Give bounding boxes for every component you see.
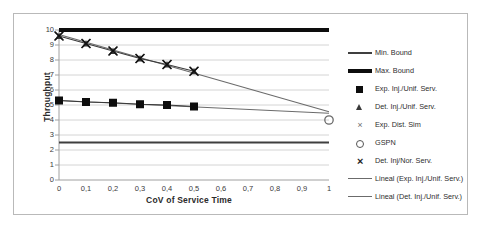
legend-label: GSPN (373, 138, 396, 147)
series-line-exp-inj-unif-serv (59, 101, 194, 107)
line-thick-key (347, 64, 373, 78)
x-small-marker-key: × (347, 118, 373, 132)
legend-item-min-bound[interactable]: Min. Bound (347, 45, 412, 60)
legend-label: Det. Inj/Nor. Serv. (373, 156, 432, 165)
legend-item-max-bound[interactable]: Max. Bound (347, 63, 414, 78)
line-thin-key (347, 46, 373, 60)
legend-label: Lineal (Exp. Inj./Unif. Serv.) (373, 174, 463, 183)
legend-label: Lineal (Det. Inj./Unif. Serv.) (373, 192, 462, 201)
chart-figure: Throughput CoV of Service Time 10 9 8 7 … (0, 0, 482, 231)
legend-label: Exp. Dist. Sim (373, 120, 421, 129)
x-big-marker-key: × (347, 154, 373, 168)
chart-legend: Min. Bound Max. Bound Exp. Inj./Unif. Se… (347, 45, 482, 195)
legend-item-exp-inj-unif-serv[interactable]: Exp. Inj./Unif. Serv. (347, 81, 437, 96)
legend-label: Max. Bound (373, 66, 414, 75)
legend-label: Min. Bound (373, 48, 412, 57)
legend-item-lineal-exp-inj-unif-serv[interactable]: Lineal (Exp. Inj./Unif. Serv.) (347, 171, 463, 186)
trend-line-key (347, 172, 373, 186)
y-axis-ticks (55, 30, 59, 180)
circle-marker-key (347, 136, 373, 150)
legend-item-gspn[interactable]: GSPN (347, 135, 396, 150)
trend-line-key (347, 190, 373, 204)
legend-label: Exp. Inj./Unif. Serv. (373, 84, 437, 93)
gridlines (59, 30, 329, 165)
triangle-marker-key (347, 100, 373, 114)
legend-label: Det. Inj./Unif. Serv. (373, 102, 436, 111)
legend-item-det-inj-nor-serv[interactable]: × Det. Inj/Nor. Serv. (347, 153, 432, 168)
legend-item-lineal-det-inj-unif-serv[interactable]: Lineal (Det. Inj./Unif. Serv.) (347, 189, 462, 204)
square-marker-key (347, 82, 373, 96)
legend-item-exp-dist-sim[interactable]: × Exp. Dist. Sim (347, 117, 421, 132)
chart-frame: Throughput CoV of Service Time 10 9 8 7 … (13, 13, 468, 215)
legend-item-det-inj-unif-serv[interactable]: Det. Inj./Unif. Serv. (347, 99, 436, 114)
